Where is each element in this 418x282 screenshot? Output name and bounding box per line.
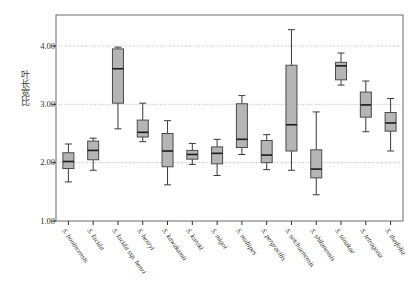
box (286, 65, 297, 151)
boxplot-chart: 叶长宽比 1.002.003.004.00 S. bonincensisS. l… (0, 0, 418, 282)
box (212, 147, 223, 164)
box (385, 113, 396, 132)
box (63, 153, 74, 169)
box (162, 134, 173, 167)
box (336, 62, 347, 79)
plot-area (0, 0, 418, 282)
box (261, 141, 272, 163)
box (236, 104, 247, 148)
box (112, 49, 123, 103)
box (311, 150, 322, 178)
box (137, 120, 148, 137)
